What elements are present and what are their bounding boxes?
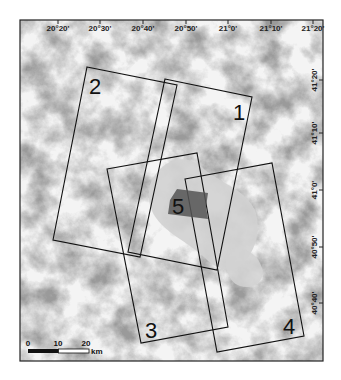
footprint-label: 1 (233, 100, 245, 125)
longitude-label: 20°30' (89, 24, 112, 33)
latitude-label: 41°20' (310, 68, 319, 91)
latitude-label: 41°0' (310, 181, 319, 200)
map-figure: 12345 20°20'20°30'20°40'20°50'21°0'21°10… (0, 0, 341, 380)
latitude-label: 41°10' (310, 121, 319, 144)
footprint-label: 2 (89, 74, 101, 99)
longitude-label: 21°0' (219, 24, 238, 33)
scale-label: 0 (26, 339, 31, 348)
longitude-label: 21°10' (260, 24, 283, 33)
longitude-label: 20°50' (175, 24, 198, 33)
scale-segment-empty (59, 349, 90, 353)
footprint-5: 5 (168, 189, 208, 219)
footprint-label: 4 (283, 314, 295, 339)
longitude-label: 21°20' (302, 24, 325, 33)
footprint-label: 3 (145, 318, 157, 343)
scale-label: 20 (82, 339, 91, 348)
longitude-label: 20°40' (132, 24, 155, 33)
latitude-label: 40°50' (310, 235, 319, 258)
footprint-label: 5 (172, 194, 184, 219)
scale-segment-filled (28, 349, 59, 353)
latitude-label: 40°40' (310, 291, 319, 314)
scale-label: 10 (54, 339, 63, 348)
longitude-label: 20°20' (47, 24, 70, 33)
scale-unit: km (91, 347, 103, 356)
